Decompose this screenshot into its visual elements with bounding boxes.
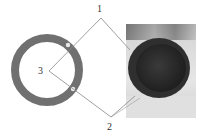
leader-line-2b	[111, 98, 140, 117]
leader-line-2	[49, 71, 135, 117]
figure: 1 2 3	[0, 0, 206, 140]
leader-line-1	[49, 18, 130, 71]
label-1: 1	[97, 4, 102, 14]
leader-lines	[0, 0, 206, 140]
label-2: 2	[107, 122, 112, 132]
label-3: 3	[38, 66, 43, 76]
